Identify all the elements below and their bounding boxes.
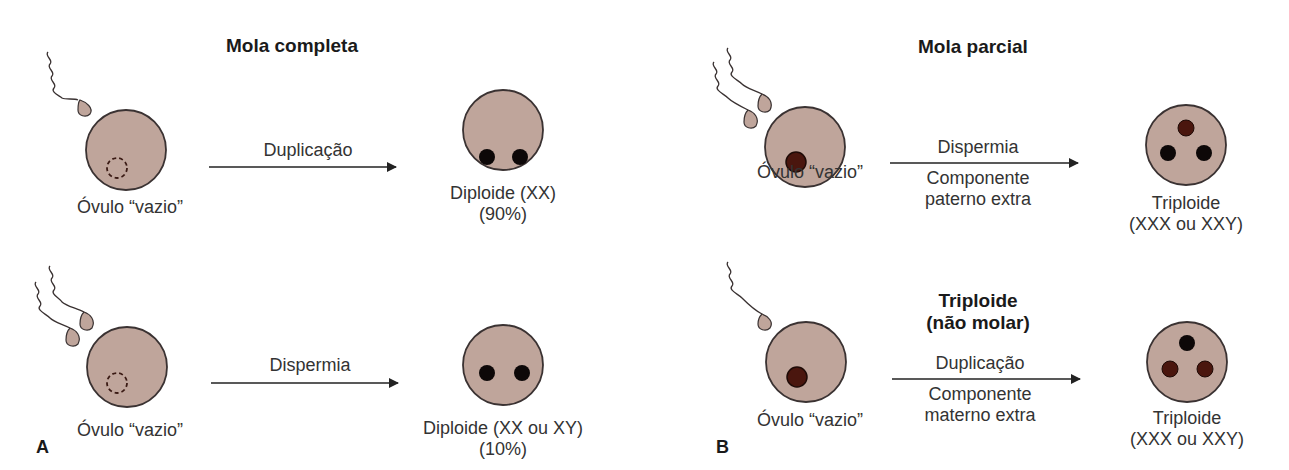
result-label: Diploide (XX) — [403, 183, 603, 204]
triploid-cell-icon — [1146, 105, 1226, 185]
egg-cell-icon — [766, 322, 846, 402]
diploid-cell-icon — [463, 90, 543, 170]
diagram-graphics — [0, 0, 1289, 470]
sperm-pair-icon — [35, 266, 93, 346]
result-label: Triploide — [1106, 193, 1266, 214]
egg-label: Óvulo “vazio” — [60, 420, 200, 441]
arrow-label: Dispermia — [222, 355, 398, 376]
arrow-sublabel: Componente — [892, 384, 1068, 405]
result-label: Triploide — [1107, 408, 1267, 429]
result-label: Diploide (XX ou XY) — [403, 418, 603, 439]
arrow-sublabel: Componente — [890, 168, 1066, 189]
diploid-cell-icon — [463, 325, 543, 405]
result-sublabel: (XXX ou XXY) — [1106, 214, 1266, 235]
panel-a-title: Mola completa — [226, 34, 358, 58]
panel-b-letter: B — [716, 437, 729, 458]
panel-b-subtitle: (não molar) — [890, 311, 1066, 335]
egg-label: Óvulo “vazio” — [60, 197, 200, 218]
sperm-pair-icon — [713, 48, 771, 128]
result-sublabel: (XXX ou XXY) — [1107, 429, 1267, 450]
egg-label: Óvulo “vazio” — [740, 162, 880, 183]
sperm-icon — [47, 52, 91, 116]
result-sublabel: (10%) — [403, 439, 603, 460]
result-sublabel: (90%) — [403, 204, 603, 225]
panel-a-letter: A — [36, 437, 49, 458]
arrow-sublabel: paterno extra — [890, 189, 1066, 210]
arrow-sublabel: materno extra — [892, 405, 1068, 426]
panel-b-title: Mola parcial — [918, 35, 1028, 59]
egg-cell-icon — [86, 110, 166, 190]
triploid-cell-icon — [1147, 322, 1227, 402]
egg-label: Óvulo “vazio” — [740, 410, 880, 431]
arrow-label: Duplicação — [220, 140, 396, 161]
sperm-icon — [727, 262, 771, 330]
arrow-label: Duplicação — [892, 353, 1068, 374]
arrow-label: Dispermia — [890, 137, 1066, 158]
panel-b-subtitle: Triploide — [890, 289, 1066, 313]
egg-cell-icon — [87, 327, 167, 407]
